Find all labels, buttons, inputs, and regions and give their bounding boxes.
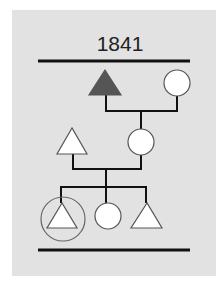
father-triangle-icon xyxy=(57,128,87,154)
pedigree-chart xyxy=(0,0,224,290)
daughter-circle-icon xyxy=(95,203,121,229)
son-1-triangle-icon xyxy=(47,203,77,228)
mother-circle-icon xyxy=(128,129,154,155)
son-2-triangle-icon xyxy=(131,203,162,228)
grandmother-circle-icon xyxy=(164,70,190,96)
grandfather-triangle-icon xyxy=(89,70,121,95)
